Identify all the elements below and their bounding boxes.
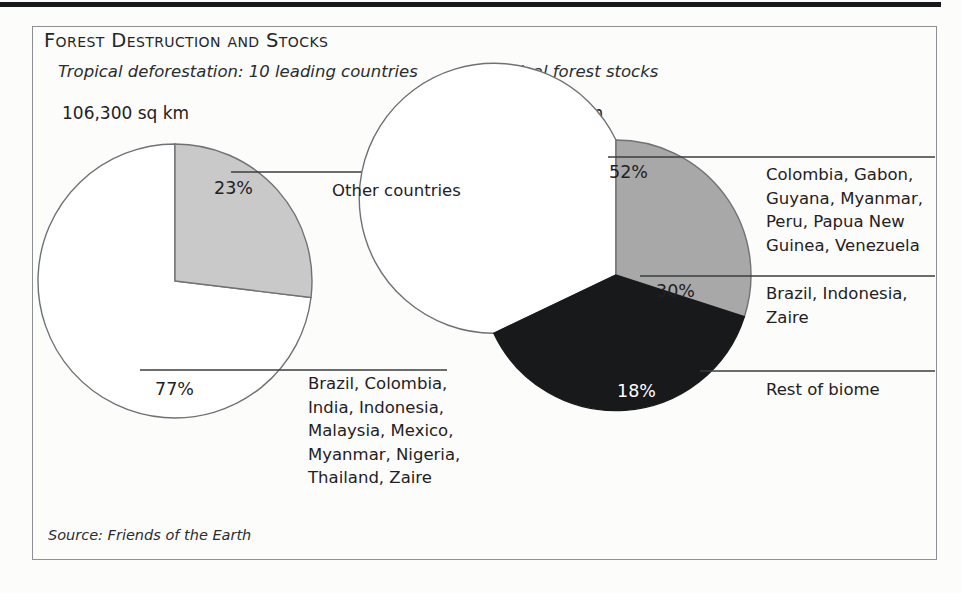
left-pie-label-23: 23%: [214, 178, 253, 198]
left-pie-slice-23: [175, 144, 312, 298]
legend-seven-countries: Colombia, Gabon, Guyana, Myanmar, Peru, …: [766, 163, 923, 257]
legend-ten-leading-countries: Brazil, Colombia, India, Indonesia, Mala…: [308, 372, 460, 490]
left-pie-label-77: 77%: [155, 379, 194, 399]
legend-other-countries: Other countries: [332, 179, 461, 203]
legend-rest-of-biome: Rest of biome: [766, 378, 880, 402]
legend-three-countries: Brazil, Indonesia, Zaire: [766, 282, 908, 329]
right-pie-label-52: 52%: [609, 162, 648, 182]
source-note: Source: Friends of the Earth: [48, 527, 251, 543]
right-pie-label-18: 18%: [617, 381, 656, 401]
right-pie-label-30: 30%: [656, 281, 695, 301]
